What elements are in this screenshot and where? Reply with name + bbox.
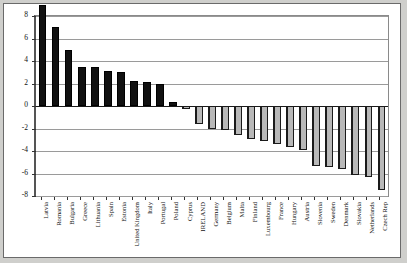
x-tick-mark bbox=[145, 197, 146, 200]
y-tick-label: -4 bbox=[4, 146, 28, 154]
x-tick-mark bbox=[184, 197, 185, 200]
bar bbox=[78, 67, 86, 106]
bar bbox=[351, 106, 359, 175]
x-tick-label: France bbox=[278, 202, 285, 220]
y-tick-mark bbox=[32, 151, 36, 152]
x-tick-label: Germany bbox=[213, 202, 220, 227]
x-tick-mark bbox=[223, 197, 224, 200]
bar bbox=[247, 106, 255, 139]
x-tick-label: Bulgaria bbox=[69, 202, 76, 225]
bar bbox=[91, 67, 99, 106]
y-tick-mark bbox=[32, 84, 36, 85]
bar bbox=[208, 106, 216, 129]
x-tick-mark bbox=[314, 197, 315, 200]
x-tick-mark bbox=[275, 197, 276, 200]
x-tick-mark bbox=[93, 197, 94, 200]
bar bbox=[299, 106, 307, 150]
y-tick-mark bbox=[32, 16, 36, 17]
x-axis: LatviaRomaniaBulgariaGreeceLithuaniaSpai… bbox=[34, 197, 389, 263]
y-tick-label: 8 bbox=[4, 11, 28, 19]
x-tick-label: Cyprus bbox=[187, 202, 194, 221]
bar bbox=[169, 102, 177, 107]
bar bbox=[365, 106, 373, 177]
y-tick-label: 0 bbox=[4, 101, 28, 109]
x-tick-label: Hungary bbox=[291, 202, 298, 225]
x-tick-mark bbox=[119, 197, 120, 200]
x-tick-label: Sweden bbox=[330, 202, 337, 223]
x-tick-mark bbox=[41, 197, 42, 200]
y-tick-mark bbox=[32, 129, 36, 130]
x-tick-label: IRELAND bbox=[200, 202, 207, 232]
x-tick-label: Lithuania bbox=[95, 202, 102, 227]
x-tick-mark bbox=[80, 197, 81, 200]
x-tick-mark bbox=[366, 197, 367, 200]
bar bbox=[143, 82, 151, 106]
x-tick-label: Denmark bbox=[343, 202, 350, 227]
y-tick-mark bbox=[32, 106, 36, 107]
y-tick-label: -8 bbox=[4, 191, 28, 199]
x-tick-label: Portugal bbox=[160, 202, 167, 224]
x-tick-label: Romania bbox=[56, 202, 63, 226]
y-tick-label: 2 bbox=[4, 79, 28, 87]
x-tick-mark bbox=[236, 197, 237, 200]
bar bbox=[195, 106, 203, 124]
y-tick-label: -2 bbox=[4, 124, 28, 132]
x-tick-mark bbox=[106, 197, 107, 200]
chart-frame: 86420-2-4-6-8 LatviaRomaniaBulgariaGreec… bbox=[3, 3, 401, 258]
bar bbox=[39, 5, 47, 106]
x-tick-mark bbox=[379, 197, 380, 200]
x-tick-mark bbox=[158, 197, 159, 200]
bar bbox=[273, 106, 281, 144]
x-tick-mark bbox=[54, 197, 55, 200]
bar bbox=[117, 72, 125, 106]
y-tick-mark bbox=[32, 61, 36, 62]
bar bbox=[221, 106, 229, 130]
x-tick-mark bbox=[262, 197, 263, 200]
x-tick-label: Czech Rep bbox=[382, 202, 389, 231]
x-tick-mark bbox=[67, 197, 68, 200]
bar bbox=[378, 106, 386, 190]
x-tick-label: Greece bbox=[82, 202, 89, 221]
x-tick-label: Finland bbox=[252, 202, 259, 222]
x-tick-label: Latvia bbox=[43, 202, 50, 219]
bar bbox=[234, 106, 242, 135]
y-tick-mark bbox=[32, 39, 36, 40]
x-tick-label: Luxembourg bbox=[265, 202, 272, 236]
bar bbox=[286, 106, 294, 147]
x-tick-mark bbox=[249, 197, 250, 200]
y-tick-label: 4 bbox=[4, 56, 28, 64]
bar bbox=[312, 106, 320, 166]
bar bbox=[130, 81, 138, 106]
x-tick-label: Slovenia bbox=[317, 202, 324, 225]
x-tick-label: Estonia bbox=[121, 202, 128, 222]
bar bbox=[182, 106, 190, 109]
x-tick-mark bbox=[353, 197, 354, 200]
x-tick-label: Austria bbox=[304, 202, 311, 221]
bar bbox=[260, 106, 268, 141]
x-tick-mark bbox=[132, 197, 133, 200]
x-tick-label: Poland bbox=[173, 202, 180, 220]
x-tick-label: Belgium bbox=[226, 202, 233, 225]
bar bbox=[156, 84, 164, 107]
x-tick-label: Spain bbox=[108, 202, 115, 217]
x-tick-label: Italy bbox=[147, 202, 154, 214]
x-tick-mark bbox=[340, 197, 341, 200]
x-tick-mark bbox=[288, 197, 289, 200]
x-tick-label: United Kingdom bbox=[134, 202, 141, 247]
bar bbox=[52, 27, 60, 106]
bar-series bbox=[36, 16, 388, 196]
x-tick-label: Slovakia bbox=[356, 202, 363, 225]
plot-area bbox=[34, 15, 389, 197]
y-tick-label: -6 bbox=[4, 169, 28, 177]
x-tick-mark bbox=[171, 197, 172, 200]
bar bbox=[104, 71, 112, 106]
y-tick-label: 6 bbox=[4, 34, 28, 42]
x-tick-label: Malta bbox=[239, 202, 246, 217]
x-tick-mark bbox=[327, 197, 328, 200]
x-tick-label: Netherlands bbox=[369, 202, 376, 234]
bar bbox=[338, 106, 346, 169]
x-tick-mark bbox=[210, 197, 211, 200]
x-tick-mark bbox=[197, 197, 198, 200]
x-tick-mark bbox=[301, 197, 302, 200]
bar bbox=[325, 106, 333, 167]
